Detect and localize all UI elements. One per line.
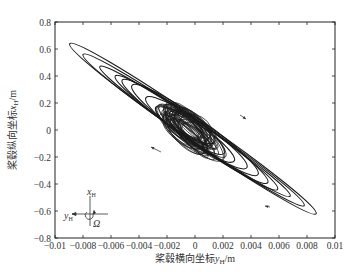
x-tick-label: −0.006 bbox=[98, 241, 125, 251]
orbit-ellipse bbox=[125, 76, 264, 184]
y-tick-label: 0.8 bbox=[39, 18, 51, 28]
x-axis-title: 桨毂横向坐标yH/m bbox=[155, 252, 235, 266]
y-tick-label: 0.6 bbox=[39, 45, 51, 55]
x-tick-label: −0.004 bbox=[126, 241, 153, 251]
x-tick-label: −0.008 bbox=[70, 241, 97, 251]
trajectory-chart: −0.01−0.008−0.006−0.004−0.00200.0020.004… bbox=[0, 0, 362, 278]
y-tick-label: −0.8 bbox=[34, 234, 51, 244]
x-tick-label: 0.006 bbox=[268, 241, 290, 251]
x-tick-label: 0.01 bbox=[327, 241, 344, 251]
y-tick-label: 0 bbox=[46, 126, 51, 136]
inset-y-label: yH bbox=[63, 210, 73, 222]
y-axis-ticks: 0.80.60.40.20−0.2−0.4−0.6−0.8 bbox=[34, 18, 335, 244]
y-tick-label: −0.6 bbox=[34, 207, 51, 217]
y-tick-label: −0.2 bbox=[34, 153, 51, 163]
x-tick-label: 0.004 bbox=[240, 241, 262, 251]
x-tick-label: 0.002 bbox=[212, 241, 234, 251]
x-tick-label: 0 bbox=[193, 241, 198, 251]
y-tick-label: 0.4 bbox=[39, 72, 51, 82]
y-axis-title: 桨毂纵向坐标xH/m bbox=[6, 90, 20, 170]
inset-coordinate-diagram bbox=[72, 196, 108, 226]
y-tick-label: −0.4 bbox=[34, 180, 51, 190]
inset-omega-label: Ω bbox=[93, 218, 100, 229]
x-tick-label: −0.002 bbox=[154, 241, 181, 251]
y-tick-label: 0.2 bbox=[39, 99, 51, 109]
inset-x-label: xH bbox=[86, 186, 96, 198]
arrow-outer-orbit-head bbox=[265, 205, 268, 208]
x-tick-label: 0.008 bbox=[296, 241, 318, 251]
